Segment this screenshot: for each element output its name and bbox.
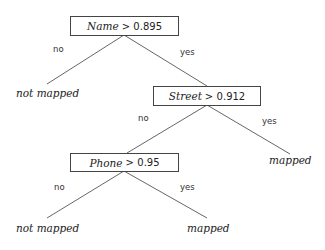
threshold: 0.895 <box>133 21 162 32</box>
root-node-name: Name > 0.895 <box>70 16 179 36</box>
leaf-mapped: mapped <box>269 154 312 166</box>
feature-label: Street <box>169 90 202 102</box>
edge-label-yes: yes <box>262 116 277 126</box>
feature-label: Phone <box>89 157 122 169</box>
threshold: 0.912 <box>217 91 246 102</box>
threshold: 0.95 <box>137 157 159 168</box>
leaf-mapped: mapped <box>187 222 230 234</box>
operator: > <box>126 157 134 168</box>
edge-label-no: no <box>53 44 64 54</box>
operator: > <box>205 91 213 102</box>
edge-label-yes: yes <box>180 182 195 192</box>
feature-label: Name <box>87 20 119 32</box>
node-street: Street > 0.912 <box>153 86 261 106</box>
leaf-not-mapped: not mapped <box>16 87 79 99</box>
edge-label-no: no <box>54 182 65 192</box>
node-phone: Phone > 0.95 <box>70 153 179 172</box>
edge-label-yes: yes <box>180 47 195 57</box>
operator: > <box>122 21 130 32</box>
decision-tree-diagram: Name > 0.895 no yes not mapped Street > … <box>0 0 325 250</box>
leaf-not-mapped: not mapped <box>16 222 79 234</box>
edge-label-no: no <box>138 113 149 123</box>
